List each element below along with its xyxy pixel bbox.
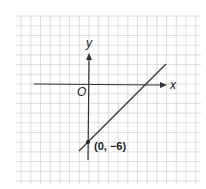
plot-line	[79, 64, 166, 151]
y-axis-arrow-icon	[86, 53, 92, 60]
x-axis-label: x	[169, 78, 177, 92]
y-intercept-point	[86, 140, 90, 144]
grid	[16, 16, 201, 184]
y-axis-label: y	[85, 36, 93, 50]
origin-label: O	[77, 85, 86, 99]
x-axis-arrow-icon	[160, 82, 167, 88]
point-label: (0, −6)	[94, 140, 126, 152]
coordinate-graph: y x O (0, −6)	[0, 0, 206, 189]
